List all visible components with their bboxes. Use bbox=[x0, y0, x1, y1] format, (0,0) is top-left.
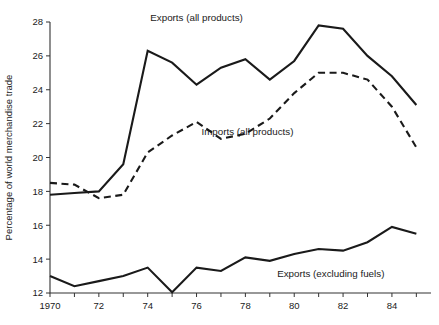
x-axis-tick-label: 84 bbox=[387, 300, 398, 311]
line-chart: 121416182022242628197072747678808284Perc… bbox=[0, 0, 439, 325]
series-line-exports-excluding-fuels bbox=[50, 227, 416, 292]
x-axis-tick-label: 72 bbox=[94, 300, 105, 311]
x-axis-tick-label: 78 bbox=[240, 300, 251, 311]
y-axis-tick-label: 24 bbox=[32, 84, 43, 95]
x-axis-tick-label: 76 bbox=[191, 300, 202, 311]
series-label-exports-all-products: Exports (all products) bbox=[150, 12, 243, 23]
y-axis-tick-label: 26 bbox=[32, 50, 43, 61]
y-axis-title: Percentage of world merchandise trade bbox=[3, 75, 14, 241]
x-axis-tick-label: 1970 bbox=[39, 300, 60, 311]
y-axis-tick-label: 14 bbox=[32, 254, 43, 265]
chart-axes bbox=[50, 22, 431, 293]
y-axis-tick-label: 22 bbox=[32, 118, 43, 129]
x-axis-tick-label: 80 bbox=[289, 300, 300, 311]
series-label-exports-excluding-fuels: Exports (excluding fuels) bbox=[277, 268, 384, 279]
chart-canvas: 121416182022242628197072747678808284Perc… bbox=[0, 0, 439, 325]
y-axis-tick-label: 16 bbox=[32, 220, 43, 231]
x-axis-tick-label: 74 bbox=[142, 300, 153, 311]
y-axis-tick-label: 20 bbox=[32, 152, 43, 163]
series-label-imports-all-products: Imports (all products) bbox=[201, 126, 293, 137]
x-axis-tick-label: 82 bbox=[338, 300, 349, 311]
y-axis-tick-label: 28 bbox=[32, 16, 43, 27]
series-line-exports-all-products bbox=[50, 25, 416, 194]
y-axis-tick-label: 18 bbox=[32, 186, 43, 197]
y-axis-tick-label: 12 bbox=[32, 287, 43, 298]
